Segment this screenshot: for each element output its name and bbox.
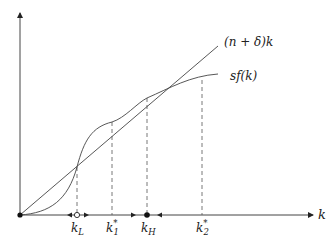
x-axis-label: k — [318, 207, 326, 222]
arrow-right-icon — [131, 213, 136, 218]
solow-diagram: k (n + δ)k sf(k) kL k*1 kH k*2 — [0, 0, 335, 246]
kH-label: kH — [141, 221, 156, 237]
arrow-left-icon — [67, 213, 72, 218]
k2-star-label: k*2 — [196, 218, 209, 237]
savings-curve-label: sf(k) — [230, 69, 258, 83]
k1-star-label: k*1 — [106, 218, 119, 237]
kH-stable-marker — [144, 212, 150, 218]
break-even-label: (n + δ)k — [224, 35, 273, 49]
kL-label: kL — [71, 221, 84, 237]
arrow-right-icon — [84, 213, 89, 218]
origin-marker — [17, 212, 22, 217]
arrow-left-icon — [157, 213, 162, 218]
break-even-line — [20, 46, 218, 215]
savings-curve — [20, 74, 218, 215]
kL-unstable-marker — [74, 212, 79, 217]
